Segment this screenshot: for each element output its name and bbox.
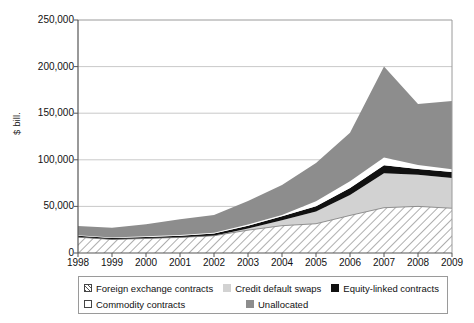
dark-gray-swatch-icon xyxy=(246,300,254,308)
legend-label-unallocated: Unallocated xyxy=(258,299,308,310)
chart-legend: Foreign exchange contracts Credit defaul… xyxy=(78,276,448,314)
hatched-swatch-icon xyxy=(84,284,92,292)
legend-row-2: Commodity contracts Unallocated xyxy=(84,296,442,312)
legend-item-commodity-contracts[interactable]: Commodity contracts xyxy=(84,299,236,310)
light-gray-swatch-icon xyxy=(223,284,231,292)
legend-row-1: Foreign exchange contracts Credit defaul… xyxy=(84,280,442,296)
black-swatch-icon xyxy=(331,284,339,292)
legend-item-credit-default-swaps[interactable]: Credit default swaps xyxy=(223,283,321,294)
legend-item-foreign-exchange-contracts[interactable]: Foreign exchange contracts xyxy=(84,283,213,294)
legend-label-foreign-exchange-contracts: Foreign exchange contracts xyxy=(96,283,213,294)
legend-label-commodity-contracts: Commodity contracts xyxy=(96,299,185,310)
legend-label-equity-linked-contracts: Equity-linked contracts xyxy=(343,283,439,294)
legend-label-credit-default-swaps: Credit default swaps xyxy=(235,283,321,294)
chart-figure: $ bill. 250,000 200,000 150,000 100,000 … xyxy=(0,0,474,323)
white-swatch-icon xyxy=(84,300,92,308)
legend-item-equity-linked-contracts[interactable]: Equity-linked contracts xyxy=(331,283,439,294)
legend-item-unallocated[interactable]: Unallocated xyxy=(246,299,381,310)
plot-area xyxy=(0,0,474,323)
x-tick-2009: 2009 xyxy=(432,257,472,268)
